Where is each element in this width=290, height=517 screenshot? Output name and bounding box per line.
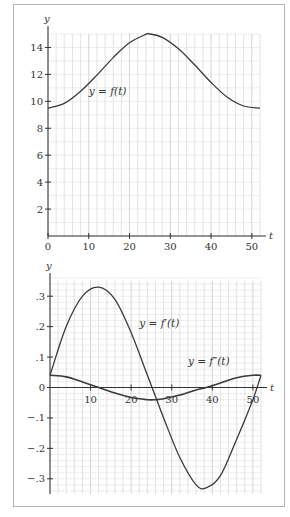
y-tick-label: 12 [30,69,43,80]
y-axis-label: y [45,260,52,271]
y-tick-label: .1 [35,352,45,363]
x-tick-label: 0 [45,241,51,252]
x-tick-label: 50 [245,241,258,252]
y-tick-label: 6 [37,150,43,161]
y-tick-label: −.1 [27,412,45,423]
y-tick-label: −.2 [27,443,45,454]
x-tick-label: 40 [206,394,219,405]
x-tick-label: 10 [82,241,95,252]
chart-svg: yt010203040502468101214y = f(t) yt102030… [0,0,290,517]
y-tick-label: 0 [39,382,45,393]
y-tick-label: 8 [37,123,43,134]
x-axis-label: t [270,382,275,393]
y-tick-label: 10 [30,96,43,107]
y-axis-label: y [43,13,50,24]
y-tick-label: .2 [35,321,45,332]
y-tick-label: .3 [35,291,45,302]
bottom-plot: yt1020304050.3.2.10−.1−.2−.3y = f′(t)y =… [27,260,275,494]
x-tick-label: 20 [123,241,136,252]
y-tick-label: −.3 [27,473,45,484]
curve-label-1: y = f′(t) [138,317,179,329]
y-tick-label: 2 [37,204,43,215]
x-axis-label: t [269,230,274,241]
y-tick-label: 14 [30,42,43,53]
x-tick-label: 30 [165,394,178,405]
y-tick-label: 4 [37,177,43,188]
x-tick-label: 10 [84,394,97,405]
top-plot: yt010203040502468101214y = f(t) [30,13,274,252]
curve-label-1: y = f(t) [88,85,127,97]
curve-label-2: y = f″(t) [187,355,230,367]
x-tick-label: 40 [205,241,218,252]
x-tick-label: 30 [164,241,177,252]
